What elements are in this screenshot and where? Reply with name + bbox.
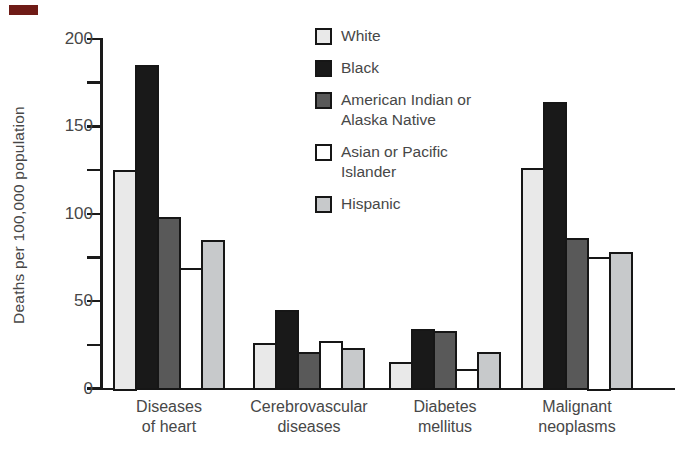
bar-2-cat-2: [433, 331, 457, 391]
bar-1-cat-0: [135, 65, 159, 390]
legend-swatch: [315, 196, 332, 213]
bar-3-cat-0: [179, 268, 203, 391]
y-axis-tick: [87, 169, 100, 172]
bar-1-cat-1: [275, 310, 299, 391]
y-axis-tick: [87, 81, 100, 84]
legend-label: Hispanic: [341, 194, 400, 214]
y-tick-label: 0: [0, 379, 93, 399]
bar-4-cat-0: [201, 240, 225, 391]
bar-0-cat-0: [113, 170, 137, 390]
legend-label: American Indian orAlaska Native: [341, 90, 471, 130]
y-axis-line: [100, 38, 103, 390]
y-tick-label: 200: [0, 29, 93, 49]
legend-swatch: [315, 144, 332, 161]
legend-label-line: Hispanic: [341, 194, 400, 214]
legend-label-line: Black: [341, 58, 379, 78]
legend-swatch: [315, 60, 332, 77]
legend-label-line: White: [341, 26, 381, 46]
legend-label-line: Islander: [341, 162, 448, 182]
legend-label: White: [341, 26, 381, 46]
bar-4-cat-3: [609, 252, 633, 390]
bar-3-cat-1: [319, 341, 343, 390]
bar-chart-figure: Deaths per 100,000 population 0501001502…: [0, 0, 680, 466]
bar-0-cat-1: [253, 343, 277, 390]
legend-swatch: [315, 92, 332, 109]
category-label: Malignantneoplasms: [492, 397, 662, 437]
legend-label: Asian or PacificIslander: [341, 142, 448, 182]
bar-3-cat-2: [455, 369, 479, 390]
scan-corner-mark: [9, 5, 38, 15]
bar-1-cat-2: [411, 329, 435, 390]
bar-0-cat-2: [389, 362, 413, 390]
y-axis-tick: [87, 344, 100, 347]
legend-label-line: Asian or Pacific: [341, 142, 448, 162]
bar-2-cat-3: [565, 238, 589, 390]
bar-2-cat-1: [297, 352, 321, 391]
y-tick-label: 150: [0, 116, 93, 136]
bar-3-cat-3: [587, 257, 611, 390]
bar-4-cat-2: [477, 352, 501, 391]
legend-label-line: Alaska Native: [341, 110, 471, 130]
bar-0-cat-3: [521, 168, 545, 390]
bar-1-cat-3: [543, 102, 567, 391]
legend-label-line: American Indian or: [341, 90, 471, 110]
category-label-line: Malignant: [492, 397, 662, 417]
y-tick-label: 100: [0, 204, 93, 224]
legend-label: Black: [341, 58, 379, 78]
bar-2-cat-0: [157, 217, 181, 390]
category-label-line: neoplasms: [492, 417, 662, 437]
y-tick-label: 50: [0, 291, 93, 311]
y-axis-tick: [87, 256, 100, 259]
bar-4-cat-1: [341, 348, 365, 390]
legend-swatch: [315, 28, 332, 45]
